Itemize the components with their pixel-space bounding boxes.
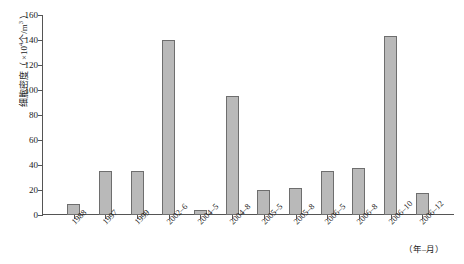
bar <box>226 96 239 215</box>
y-tick-label: 120 <box>0 61 38 70</box>
y-axis-tick <box>38 15 42 16</box>
y-axis-tick <box>38 40 42 41</box>
y-tick-label: 60 <box>0 136 38 145</box>
y-axis-tick <box>38 65 42 66</box>
bar-chart: 细胞密度（ ×104个/m3 ） 020406080100120140160 1… <box>0 0 464 264</box>
y-axis-tick <box>38 190 42 191</box>
y-tick-label: 140 <box>0 36 38 45</box>
bar <box>384 36 397 215</box>
y-axis-tick-labels: 020406080100120140160 <box>0 0 38 264</box>
bar-series <box>42 15 454 215</box>
plot-area <box>42 15 454 215</box>
y-axis-tick <box>38 90 42 91</box>
bar <box>162 40 175 215</box>
x-axis-tick-labels: 1988199719992002–62004–52004–82005–52005… <box>42 216 454 264</box>
y-tick-label: 40 <box>0 161 38 170</box>
y-tick-label: 20 <box>0 186 38 195</box>
y-tick-label: 0 <box>0 211 38 220</box>
bar <box>352 168 365 216</box>
y-axis-tick <box>38 165 42 166</box>
y-tick-label: 80 <box>0 111 38 120</box>
x-axis-unit-label: （年–月） <box>404 242 444 254</box>
y-axis-tick <box>38 140 42 141</box>
y-axis-tick <box>38 115 42 116</box>
y-tick-label: 160 <box>0 11 38 20</box>
y-tick-label: 100 <box>0 86 38 95</box>
